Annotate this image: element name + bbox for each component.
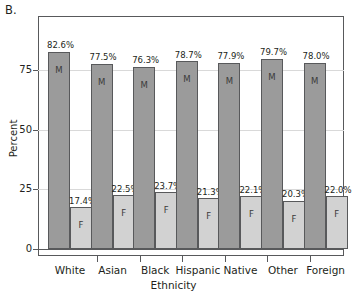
bar-value-label: 78.7% [175,51,202,60]
bar-f-foreign[interactable]: F [326,196,348,249]
bar-value-label: 76.3% [132,56,159,65]
bar-m-white[interactable]: M [48,52,70,249]
y-axis-tick-mark [33,70,38,71]
bar-group: M82.6%F17.4% [48,16,92,249]
bar-f-native[interactable]: F [240,196,262,249]
x-axis-tick-mark [182,256,183,262]
bar-m-native[interactable]: M [218,63,240,249]
bar-group: M77.9%F22.1% [218,16,262,249]
x-axis-tick-label-other: Other [268,264,298,276]
bar-m-hispanic[interactable]: M [176,61,198,249]
bar-f-asian[interactable]: F [113,195,135,249]
x-axis-tick-label-foreign: Foreign [306,264,345,276]
y-axis-tick-mark [33,130,38,131]
bar-series-letter: M [305,76,325,86]
bar-series-letter: M [134,80,154,90]
bar-group: M76.3%F23.7% [133,16,177,249]
x-axis-tick-label-black: Black [141,264,169,276]
y-axis-tick-labels: 0255075 [4,16,32,256]
x-axis-tick-label-hispanic: Hispanic [175,264,220,276]
bar-series-letter: F [71,220,91,230]
x-axis-tick-mark [310,256,311,262]
bar-m-black[interactable]: M [133,67,155,249]
bar-f-other[interactable]: F [283,201,305,249]
plot-area: M82.6%F17.4%M77.5%F22.5%M76.3%F23.7%M78.… [38,16,344,256]
bar-value-label: 22.0% [325,186,352,195]
bar-group: M77.5%F22.5% [91,16,135,249]
y-axis-tick-label: 25 [6,184,32,194]
bar-value-label: 77.9% [217,52,244,61]
bar-series-letter: F [327,209,347,219]
bar-series-letter: F [241,209,261,219]
bar-series-letter: F [156,205,176,215]
x-axis-tick-mark [97,256,98,262]
bar-value-label: 82.6% [47,41,74,50]
bar-series-letter: F [114,208,134,218]
x-axis-tick-label-native: Native [223,264,257,276]
y-axis-tick-mark [33,189,38,190]
bar-value-label: 79.7% [260,48,287,57]
bar-f-white[interactable]: F [70,207,92,249]
x-axis-line [38,249,344,250]
bar-value-label: 78.0% [303,52,330,61]
bar-f-hispanic[interactable]: F [198,198,220,249]
x-axis-title: Ethnicity [0,279,347,291]
y-axis-tick-label: 50 [6,125,32,135]
bar-group: M78.7%F21.3% [176,16,220,249]
panel-label: B. [5,3,17,17]
x-axis-tick-label-asian: Asian [98,264,127,276]
bar-series-letter: M [49,65,69,75]
bar-series-letter: F [284,214,304,224]
x-axis-tick-label-white: White [55,264,86,276]
bar-series-letter: M [219,76,239,86]
bar-m-other[interactable]: M [261,59,283,249]
x-axis-tick-mark [225,256,226,262]
x-axis-tick-mark [140,256,141,262]
bar-series-letter: F [199,211,219,221]
bar-m-foreign[interactable]: M [304,63,326,249]
bar-series-letter: M [92,77,112,87]
bar-group: M78.0%F22.0% [304,16,348,249]
y-axis-tick-label: 0 [6,244,32,254]
bar-m-asian[interactable]: M [91,64,113,249]
y-axis-tick-label: 75 [6,65,32,75]
bar-f-black[interactable]: F [155,192,177,249]
bar-group: M79.7%F20.3% [261,16,305,249]
bar-series-letter: M [262,72,282,82]
bar-value-label: 77.5% [90,53,117,62]
bar-series-letter: M [177,74,197,84]
x-axis-tick-mark [267,256,268,262]
